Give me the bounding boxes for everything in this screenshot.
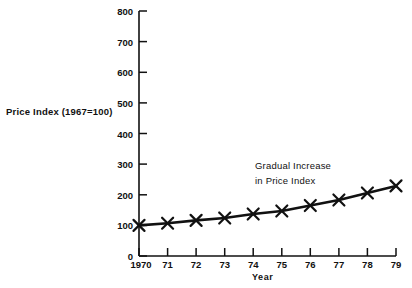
y-tick-label-200: 200 <box>108 189 133 200</box>
x-tick-label-77: 77 <box>334 259 345 270</box>
x-tick-label-79: 79 <box>391 259 402 270</box>
annotation-gradual-increase-line2: in Price Index <box>255 175 315 186</box>
x-tick-label-71: 71 <box>162 259 173 270</box>
x-axis-title: Year <box>252 272 273 282</box>
x-tick-label-75: 75 <box>277 259 288 270</box>
y-tick-label-400: 400 <box>108 128 133 139</box>
price-index-line-chart: Price Index (1967=100) Year 800 700 600 … <box>0 0 412 288</box>
y-axis-ticks <box>139 11 147 256</box>
y-tick-label-600: 600 <box>108 67 133 78</box>
y-tick-label-700: 700 <box>108 36 133 47</box>
y-tick-label-500: 500 <box>108 97 133 108</box>
plot-area <box>0 0 412 288</box>
x-tick-label-72: 72 <box>191 259 202 270</box>
annotation-gradual-increase-line1: Gradual Increase <box>255 160 331 171</box>
x-tick-label-1970: 1970 <box>130 259 151 270</box>
x-axis-ticks <box>139 248 396 256</box>
x-tick-label-73: 73 <box>219 259 230 270</box>
price-index-series-line <box>139 186 396 226</box>
y-tick-label-300: 300 <box>108 159 133 170</box>
x-tick-label-74: 74 <box>248 259 259 270</box>
y-tick-label-0: 0 <box>108 251 133 262</box>
y-tick-label-100: 100 <box>108 220 133 231</box>
y-axis-title: Price Index (1967=100) <box>6 106 113 117</box>
y-tick-label-800: 800 <box>108 6 133 17</box>
x-tick-label-78: 78 <box>362 259 373 270</box>
x-tick-label-76: 76 <box>305 259 316 270</box>
